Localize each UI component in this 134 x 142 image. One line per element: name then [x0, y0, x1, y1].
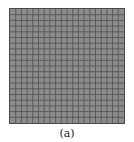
grid-lines [10, 9, 124, 123]
grid-mesh [9, 8, 125, 124]
figure-caption: (a) [0, 127, 134, 140]
figure: (a) [0, 0, 134, 142]
